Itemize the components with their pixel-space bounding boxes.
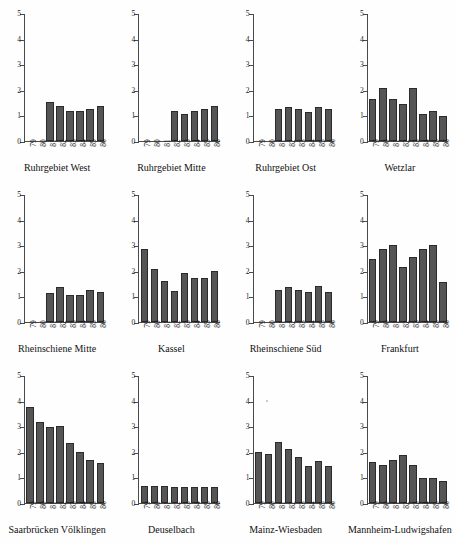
y-axis-tick-label: 5	[17, 372, 21, 380]
y-axis-tick-label: 5	[360, 191, 364, 199]
bar-slot	[408, 195, 418, 322]
bar-slot	[189, 14, 199, 141]
x-label-slot: 85	[314, 143, 324, 161]
y-axis-tick-label: 1	[132, 294, 136, 302]
bar-slot	[55, 376, 65, 503]
y-axis-tick-label: 1	[17, 113, 21, 121]
panel-title: Ruhrgebiet Mitte	[114, 162, 228, 174]
bar-slot	[209, 14, 219, 141]
bar	[141, 249, 148, 322]
chart-panel: 0123457980818283848586Rheinschiene Mitte	[0, 181, 114, 362]
bar	[419, 478, 426, 503]
bar-slot	[304, 376, 314, 503]
bar-series	[139, 195, 219, 322]
panel-title: Mannheim-Ludwigshafen	[343, 524, 457, 536]
x-label-slot: 81	[274, 324, 284, 342]
bar	[275, 290, 282, 322]
plot-area: 012345	[367, 376, 448, 504]
y-axis-tick-label: 0	[17, 500, 21, 508]
x-label-slot: 83	[65, 143, 75, 161]
bar-slot	[85, 195, 95, 322]
x-axis-labels: 7980818283848586	[25, 143, 105, 161]
x-label-slot: 85	[85, 324, 95, 342]
bar-slot	[25, 195, 35, 322]
bar	[399, 455, 406, 503]
x-label-slot: 83	[179, 324, 189, 342]
bar-slot	[139, 14, 149, 141]
bar-slot	[85, 376, 95, 503]
bar-series	[25, 14, 105, 141]
y-axis-tick-label: 3	[132, 423, 136, 431]
x-label-slot: 82	[169, 143, 179, 161]
y-axis-tick-label: 1	[246, 475, 250, 483]
y-axis-tick-label: 3	[246, 61, 250, 69]
x-axis-labels: 7980818283848586	[368, 143, 448, 161]
bar-slot	[284, 376, 294, 503]
panel-title: Frankfurt	[343, 343, 457, 355]
bar-slot	[398, 376, 408, 503]
x-label-slot: 83	[179, 143, 189, 161]
panel-title: Kassel	[114, 343, 228, 355]
x-label-slot: 80	[149, 324, 159, 342]
x-label-slot: 82	[169, 505, 179, 523]
bar-slot	[179, 14, 189, 141]
x-label-slot: 79	[139, 143, 149, 161]
bar	[171, 111, 178, 141]
bar	[315, 107, 322, 141]
chart-panel: 0123457980818283848586Ruhrgebiet Mitte	[114, 0, 228, 181]
bar-slot	[45, 376, 55, 503]
bar-slot	[274, 14, 284, 141]
bar	[369, 462, 376, 503]
x-label-slot: 86	[95, 324, 105, 342]
x-label-slot: 82	[284, 143, 294, 161]
chart-panel: 0123457980818283848586Ruhrgebiet West	[0, 0, 114, 181]
x-label-slot: 86	[95, 505, 105, 523]
x-label-slot: 84	[75, 143, 85, 161]
plot-area: 012345	[253, 195, 334, 323]
bar	[295, 457, 302, 503]
bar-slot	[264, 376, 274, 503]
x-label-slot: 80	[264, 324, 274, 342]
bar	[181, 114, 188, 141]
bar-slot	[35, 14, 45, 141]
chart-panel: 0123457980818283848586Rheinschiene Süd	[229, 181, 343, 362]
x-label-slot: 85	[85, 143, 95, 161]
x-label-slot: 84	[189, 505, 199, 523]
bar-slot	[35, 376, 45, 503]
chart-panel: 0123457980818283848586Mainz-Wiesbaden	[229, 362, 343, 543]
bar-slot	[189, 376, 199, 503]
x-label-slot: 83	[294, 143, 304, 161]
bar-slot	[139, 376, 149, 503]
x-label-slot: 82	[398, 143, 408, 161]
bar-slot	[428, 376, 438, 503]
bar-series	[25, 195, 105, 322]
y-axis-tick-label: 0	[132, 138, 136, 146]
bar	[409, 465, 416, 503]
bar-slot	[314, 376, 324, 503]
bar-series	[368, 14, 448, 141]
bar	[171, 291, 178, 322]
x-label-slot: 82	[284, 324, 294, 342]
plot-area: 012345	[24, 376, 105, 504]
x-label-slot: 79	[139, 324, 149, 342]
x-label-slot: 80	[378, 324, 388, 342]
bar	[325, 109, 332, 141]
y-axis-tick-label: 2	[132, 87, 136, 95]
bar	[191, 111, 198, 141]
bar-slot	[428, 14, 438, 141]
x-label-slot: 86	[209, 143, 219, 161]
x-label-slot: 85	[428, 143, 438, 161]
x-axis-tick-label: 86	[443, 320, 451, 328]
bar	[46, 293, 53, 322]
x-axis-tick-label: 86	[100, 139, 108, 147]
chart-panel: 0123457980818283848586Ruhrgebiet Ost	[229, 0, 343, 181]
bar	[379, 249, 386, 322]
x-axis-tick-label: 86	[443, 501, 451, 509]
bar-slot	[324, 195, 334, 322]
y-axis-tick-label: 3	[246, 423, 250, 431]
x-label-slot: 82	[55, 324, 65, 342]
panel-title: Rheinschiene Mitte	[0, 343, 114, 355]
bar-slot	[284, 14, 294, 141]
bar	[56, 287, 63, 322]
plot-area: 012345	[24, 14, 105, 142]
